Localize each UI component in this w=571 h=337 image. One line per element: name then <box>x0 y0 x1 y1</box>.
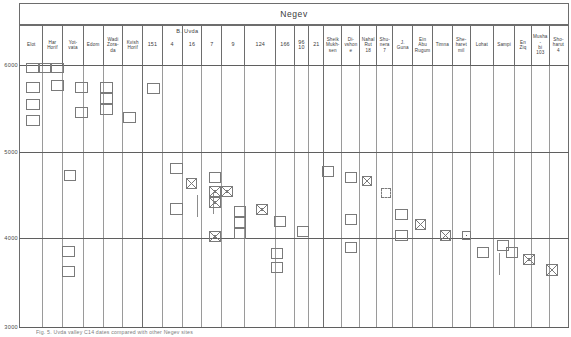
column-header-uvda-124[interactable]: 124 <box>244 25 275 65</box>
column-header-sheik-mukhsen[interactable]: Sheik Mukh- sen <box>323 25 341 65</box>
date-range-box[interactable] <box>362 176 372 186</box>
date-range-box[interactable] <box>345 242 357 253</box>
column-header-mushabi-103[interactable]: Musha- bi 103 <box>531 25 549 65</box>
date-range-box[interactable] <box>39 63 51 73</box>
column-header-uvda-166[interactable]: 166 <box>275 25 293 65</box>
column-header-uvda-16[interactable]: 16 <box>182 25 202 65</box>
date-range-box[interactable] <box>395 209 408 220</box>
column-header-kvish-horif[interactable]: Kvish Horif <box>122 25 142 65</box>
column-header-label: Musha- bi 103 <box>532 34 549 56</box>
column-header-divshone[interactable]: Di- vshone <box>341 25 359 65</box>
date-range-box[interactable] <box>62 246 75 257</box>
column-separator <box>376 65 377 328</box>
column-separator <box>359 65 360 328</box>
date-range-box[interactable] <box>234 206 246 217</box>
date-range-box[interactable] <box>100 82 113 93</box>
column-header-edom[interactable]: Edom <box>83 25 103 65</box>
column-header-uvda-7[interactable]: 7 <box>201 25 221 65</box>
column-header-uvda-4[interactable]: 4 <box>162 25 182 65</box>
date-range-box[interactable] <box>170 163 183 174</box>
figure-caption: Fig. 5. Uvda valley C14 dates compared w… <box>36 329 556 335</box>
column-separator <box>42 65 43 328</box>
date-range-box[interactable] <box>322 166 334 177</box>
column-separator <box>62 65 63 328</box>
date-range-box[interactable] <box>62 266 75 277</box>
date-range-box[interactable] <box>51 63 64 73</box>
date-range-box[interactable] <box>440 230 451 241</box>
column-separator <box>341 65 342 328</box>
column-header-timna[interactable]: Timna <box>432 25 452 65</box>
column-header-en-ziq[interactable]: En Ziq <box>514 25 530 65</box>
column-separator <box>244 65 245 328</box>
date-range-box[interactable] <box>123 112 136 123</box>
date-range-box[interactable] <box>147 83 160 94</box>
column-header-shoharut-4[interactable]: Sho- harut 4 <box>549 25 567 65</box>
date-range-box[interactable] <box>395 230 408 241</box>
column-header-uvda-9[interactable]: 9 <box>221 25 244 65</box>
date-range-box[interactable] <box>209 197 221 208</box>
date-range-box[interactable] <box>345 172 357 183</box>
date-range-box[interactable] <box>506 247 518 258</box>
column-header-wadi-zora[interactable]: Wadi Zora- da <box>103 25 123 65</box>
column-header-lohat[interactable]: Lohat <box>470 25 493 65</box>
date-range-box[interactable] <box>26 99 40 110</box>
column-separator <box>182 65 183 328</box>
date-range-box[interactable] <box>274 216 286 227</box>
date-range-box[interactable] <box>75 107 88 118</box>
column-header-Elot[interactable]: Elot <box>21 25 42 65</box>
date-range-box[interactable] <box>523 254 535 265</box>
date-range-box[interactable] <box>546 264 558 276</box>
date-range-box[interactable] <box>477 247 489 258</box>
date-range-box[interactable] <box>209 172 221 183</box>
date-range-box[interactable] <box>234 228 246 239</box>
date-range-box[interactable] <box>221 186 233 197</box>
date-range-box[interactable] <box>186 178 197 189</box>
column-header-ein-abu-rugum[interactable]: Ein Abu Rugum <box>412 25 432 65</box>
column-separator <box>201 65 202 328</box>
date-range-box[interactable] <box>234 217 246 228</box>
date-range-box[interactable] <box>381 188 391 198</box>
column-header-sheharet[interactable]: She- haret mil <box>452 25 470 65</box>
column-separator <box>308 65 309 328</box>
column-header-shunera[interactable]: Shu- nera 7 <box>376 25 392 65</box>
column-header-uvda-21[interactable]: 21 <box>308 25 323 65</box>
date-range-box[interactable] <box>100 93 113 104</box>
column-separator <box>470 65 471 328</box>
column-separator <box>162 65 163 328</box>
column-header-label: Wadi Zora- da <box>106 37 120 53</box>
date-range-box[interactable] <box>256 204 268 215</box>
column-header-sampi[interactable]: Sampi <box>493 25 514 65</box>
gridline <box>19 327 569 328</box>
column-header-uvda-96[interactable]: 96 10 <box>294 25 309 65</box>
date-range-box[interactable] <box>51 80 64 91</box>
date-range-box[interactable] <box>345 214 357 225</box>
column-header-nahal-rut[interactable]: Nahal Rut 18 <box>359 25 375 65</box>
y-axis-tick-6000: 6000 <box>0 62 18 68</box>
date-range-box[interactable] <box>170 203 183 215</box>
column-header-label: 16 <box>188 42 196 47</box>
gridline <box>19 152 569 153</box>
column-header-label: 151 <box>147 42 158 47</box>
date-range-box[interactable] <box>462 231 471 240</box>
column-separator <box>549 65 550 328</box>
column-header-label: 96 10 <box>297 40 305 51</box>
column-header-uvda-151[interactable]: 151 <box>142 25 162 65</box>
column-header-j-guna[interactable]: J. Guna <box>392 25 412 65</box>
date-range-box[interactable] <box>209 186 221 197</box>
column-header-har-horif[interactable]: Har Horif <box>42 25 63 65</box>
date-range-box[interactable] <box>26 63 39 73</box>
negev-c14-chart-figure: Negev B. Uvda ElotHar HorifYot- vataEdom… <box>0 0 571 337</box>
date-range-box[interactable] <box>75 82 88 93</box>
date-range-box[interactable] <box>26 82 40 93</box>
column-header-label: Kvish Horif <box>126 40 140 51</box>
date-range-box[interactable] <box>271 262 283 273</box>
date-range-box[interactable] <box>297 226 309 237</box>
column-header-yotvata[interactable]: Yot- vata <box>62 25 83 65</box>
date-range-box[interactable] <box>209 231 221 242</box>
date-range-box[interactable] <box>415 219 426 230</box>
date-range-box[interactable] <box>271 248 283 259</box>
date-range-box[interactable] <box>100 104 113 115</box>
date-range-box[interactable] <box>64 170 76 181</box>
column-separator <box>412 65 413 328</box>
date-range-box[interactable] <box>26 115 40 126</box>
